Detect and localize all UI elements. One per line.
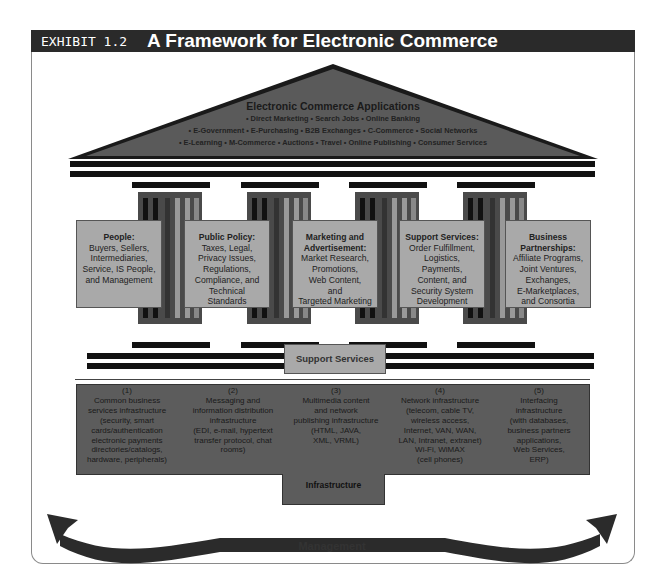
column-base <box>457 342 535 348</box>
column-cap <box>241 182 319 188</box>
column-cap <box>457 182 535 188</box>
infrastructure-item: (4) Network infrastructure (telecom, cab… <box>390 386 490 465</box>
item-line: (telecom, cable TV, <box>390 406 490 416</box>
item-number: (4) <box>390 386 490 396</box>
pillar-business-partnerships: Business Partnerships: Affiliate Program… <box>505 220 591 308</box>
pillar-line: Promotions, <box>293 264 377 275</box>
item-line: infrastructure <box>183 416 283 426</box>
item-line: (HTML, JAVA, <box>286 426 386 436</box>
item-line: (cell phones) <box>390 455 490 465</box>
item-line: Internet, VAN, WAN, <box>390 426 490 436</box>
pillar-line: E-Marketplaces, <box>506 286 590 297</box>
pillar-line: and Consortia <box>506 296 590 307</box>
item-line: cards/authentication <box>77 426 177 436</box>
pillar-line: Compliance, and <box>185 275 269 286</box>
pillar-line: Web Content, <box>293 275 377 286</box>
roof-applications: Electronic Commerce Applications • Direc… <box>100 100 566 149</box>
item-line: infrastructure <box>489 406 589 416</box>
pillar-line: Technical <box>185 286 269 297</box>
item-line: publishing infrastructure <box>286 416 386 426</box>
pillar-public-policy: Public Policy: Taxes, Legal, Privacy Iss… <box>184 220 270 308</box>
item-line: wireless access, <box>390 416 490 426</box>
item-number: (5) <box>489 386 589 396</box>
item-line: Common business <box>77 396 177 406</box>
item-number: (1) <box>77 386 177 396</box>
item-line: rooms) <box>183 445 283 455</box>
pillar-line: Exchanges, <box>506 275 590 286</box>
infrastructure-item: (5) Interfacing infrastructure (with dat… <box>489 386 589 465</box>
pillar-title: Business <box>506 232 590 243</box>
column-cap <box>349 182 427 188</box>
pillar-line: Buyers, Sellers, <box>77 243 161 254</box>
pillar-line: Targeted Marketing <box>293 296 377 307</box>
item-line: business partners <box>489 426 589 436</box>
item-line: electronic payments <box>77 436 177 446</box>
item-line: Web Services, <box>489 445 589 455</box>
pillar-title: Partnerships: <box>506 243 590 254</box>
item-line: directories/catalogs, <box>77 445 177 455</box>
item-line: information distribution <box>183 406 283 416</box>
item-line: hardware, peripherals) <box>77 455 177 465</box>
pillar-line: Security System <box>400 286 484 297</box>
item-line: (with databases, <box>489 416 589 426</box>
pillar-line: Regulations, <box>185 264 269 275</box>
item-line: Wi-Fi, WiMAX <box>390 445 490 455</box>
pillar-line: Order Fulfillment, <box>400 243 484 254</box>
pillar-line: Service, IS People, <box>77 264 161 275</box>
pillar-line: Taxes, Legal, <box>185 243 269 254</box>
item-line: Network infrastructure <box>390 396 490 406</box>
roof-title: Electronic Commerce Applications <box>100 100 566 113</box>
item-line: (EDI, e-mail, hypertext <box>183 426 283 436</box>
pillar-line: Payments, <box>400 264 484 275</box>
pillar-line: Market Research, <box>293 253 377 264</box>
pillar-line: Development <box>400 296 484 307</box>
roof-line: • E-Government • E-Purchasing • B2B Exch… <box>100 125 566 137</box>
infrastructure-item: (3) Multimedia content and network publi… <box>286 386 386 445</box>
pillar-marketing: Marketing and Advertisement: Market Rese… <box>292 220 378 308</box>
item-number: (2) <box>183 386 283 396</box>
column-base <box>132 342 210 348</box>
pillar-title: People: <box>77 232 161 243</box>
item-line: XML, VRML) <box>286 436 386 446</box>
item-line: Multimedia content <box>286 396 386 406</box>
pillar-line: Affiliate Programs, <box>506 253 590 264</box>
pillar-line: Joint Ventures, <box>506 264 590 275</box>
pillar-line: and <box>293 286 377 297</box>
item-line: and network <box>286 406 386 416</box>
pillar-line: Content, and <box>400 275 484 286</box>
top-beam <box>70 171 595 177</box>
item-number: (3) <box>286 386 386 396</box>
pillar-title: Public Policy: <box>185 232 269 243</box>
divider-line <box>75 379 590 380</box>
roof-line: • Direct Marketing • Search Jobs • Onlin… <box>100 113 566 125</box>
item-line: transfer protocol, chat <box>183 436 283 446</box>
item-line: (security, smart <box>77 416 177 426</box>
pillar-line: Intermediaries, <box>77 253 161 264</box>
infrastructure-item: (1) Common business services infrastruct… <box>77 386 177 465</box>
column-cap <box>132 182 210 188</box>
roof-line: • E-Learning • M-Commerce • Auctions • T… <box>100 137 566 149</box>
top-beam <box>70 161 595 167</box>
item-line: Interfacing <box>489 396 589 406</box>
item-line: ERP) <box>489 455 589 465</box>
support-services-box: Support Services <box>284 344 386 374</box>
management-label: Management <box>0 540 664 552</box>
pillar-title: Advertisement: <box>293 243 377 254</box>
pillar-line: and Management <box>77 275 161 286</box>
item-line: services infrastructure <box>77 406 177 416</box>
exhibit-label: EXHIBIT 1.2 <box>41 33 127 51</box>
pillar-title: Support Services: <box>400 232 484 243</box>
infrastructure-item: (2) Messaging and information distributi… <box>183 386 283 455</box>
item-line: applications, <box>489 436 589 446</box>
pillar-line: Logistics, <box>400 253 484 264</box>
item-line: Messaging and <box>183 396 283 406</box>
item-line: LAN, Intranet, extranet) <box>390 436 490 446</box>
pillar-line: Privacy Issues, <box>185 253 269 264</box>
exhibit-title: A Framework for Electronic Commerce <box>147 31 498 51</box>
pillar-people: People: Buyers, Sellers, Intermediaries,… <box>76 220 162 308</box>
pillar-line: Standards <box>185 296 269 307</box>
pillar-title: Marketing and <box>293 232 377 243</box>
pillar-support-services: Support Services: Order Fulfillment, Log… <box>399 220 485 308</box>
